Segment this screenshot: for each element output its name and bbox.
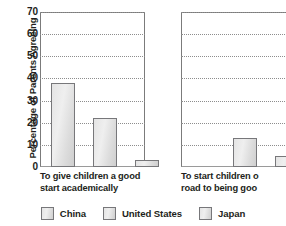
legend-item-japan[interactable]: Japan [199,207,245,220]
category-label-line: road to being goo [181,183,286,195]
bar [93,118,117,167]
chart-legend: ChinaUnited StatesJapan [0,204,286,222]
chart-panel-1 [181,12,286,167]
bar-chart: Percentage of Parents Agreeing 010203040… [0,0,286,226]
bar [135,160,159,167]
bar [51,83,75,167]
y-axis-tick-label: 0 [14,162,38,172]
y-axis-tick-label: 10 [14,140,38,150]
category-label-line: To start children o [181,171,286,183]
y-axis-tick-label: 50 [14,51,38,61]
category-label-line: To give children a good [40,171,148,183]
legend-item-china[interactable]: China [41,207,86,220]
legend-swatch-icon [103,207,116,220]
bars-layer [181,12,286,167]
y-axis-tick-label: 30 [14,96,38,106]
category-label-0: To give children a good start academical… [40,171,148,194]
bars-layer [40,12,145,167]
chart-panel-0 [40,12,145,167]
legend-swatch-icon [41,207,54,220]
bar [275,156,286,167]
legend-item-united-states[interactable]: United States [103,207,182,220]
legend-label: China [60,208,86,219]
legend-label: Japan [218,208,245,219]
legend-label: United States [122,208,182,219]
category-label-line: start academically [40,183,148,195]
bar [233,138,257,167]
y-axis-tick-label: 60 [14,29,38,39]
legend-swatch-icon [199,207,212,220]
y-axis-tick-label: 70 [14,7,38,17]
y-axis-tick-label: 20 [14,118,38,128]
category-label-1: To start children o road to being goo [181,171,286,194]
y-axis-tick-label: 40 [14,73,38,83]
y-axis-tick-labels: 010203040506070 [14,0,38,175]
